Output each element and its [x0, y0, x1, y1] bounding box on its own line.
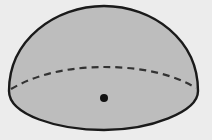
- hemisphere-diagram: [0, 0, 212, 140]
- center-point: [100, 94, 108, 102]
- hemisphere-figure: [0, 0, 212, 140]
